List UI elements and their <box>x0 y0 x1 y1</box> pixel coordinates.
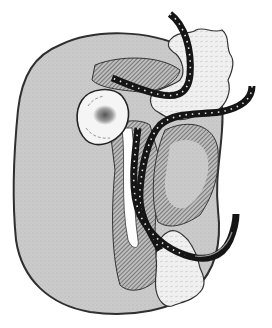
illustration-canvas <box>0 0 272 328</box>
kidney-illustration <box>0 0 272 328</box>
cyst-core <box>93 105 117 125</box>
